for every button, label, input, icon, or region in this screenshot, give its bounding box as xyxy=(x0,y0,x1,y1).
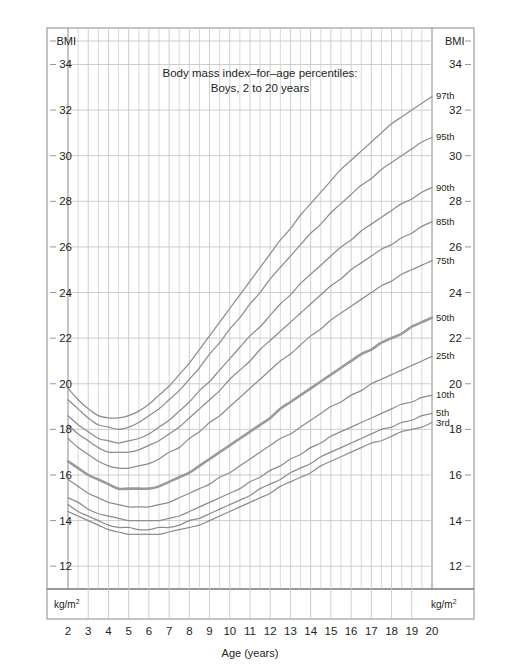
x-tick-10: 10 xyxy=(223,625,236,637)
y-tick-right-28: 28 xyxy=(449,195,462,207)
y-tick-left-14: 14 xyxy=(59,515,72,527)
x-tick-16: 16 xyxy=(345,625,358,637)
x-tick-11: 11 xyxy=(244,625,256,637)
y-tick-left-22: 22 xyxy=(59,332,72,344)
y-tick-right-24: 24 xyxy=(449,287,462,299)
x-tick-9: 9 xyxy=(206,625,212,637)
y-tick-right-12: 12 xyxy=(449,560,462,572)
x-tick-19: 19 xyxy=(405,625,418,637)
x-tick-8: 8 xyxy=(186,625,192,637)
y-tick-left-12: 12 xyxy=(59,560,72,572)
x-tick-6: 6 xyxy=(146,625,152,637)
x-tick-20: 20 xyxy=(426,625,439,637)
chart-canvas: 121416182022242628303234BMI 121416182022… xyxy=(0,0,520,666)
y-tick-right-14: 14 xyxy=(449,515,462,527)
x-axis-title: Age (years) xyxy=(222,647,279,659)
chart-title: Body mass index–for–age percentiles: xyxy=(163,67,358,79)
percentile-label-97th: 97th xyxy=(436,90,455,101)
y-tick-left-32: 32 xyxy=(59,104,72,116)
x-tick-5: 5 xyxy=(125,625,131,637)
percentile-label-25th: 25th xyxy=(436,350,455,361)
y-tick-left-34: 34 xyxy=(59,58,72,70)
x-tick-12: 12 xyxy=(264,625,277,637)
percentile-label-50th: 50th xyxy=(436,312,455,323)
y-tick-left-18: 18 xyxy=(59,423,72,435)
y-tick-right-22: 22 xyxy=(449,332,462,344)
y-tick-right-18: 18 xyxy=(449,423,462,435)
x-tick-18: 18 xyxy=(385,625,398,637)
percentile-label-75th: 75th xyxy=(436,255,455,266)
y-tick-right-34: 34 xyxy=(449,58,462,70)
y-tick-left-30: 30 xyxy=(59,150,72,162)
bmi-growth-chart: 121416182022242628303234BMI 121416182022… xyxy=(0,0,520,666)
percentile-label-90th: 90th xyxy=(436,182,455,193)
y-tick-left-26: 26 xyxy=(59,241,72,253)
percentile-label-95th: 95th xyxy=(436,131,455,142)
x-tick-3: 3 xyxy=(85,625,91,637)
y-tick-right-32: 32 xyxy=(449,104,462,116)
chart-subtitle: Boys, 2 to 20 years xyxy=(211,82,310,94)
percentile-label-3rd: 3rd xyxy=(436,417,450,428)
x-tick-13: 13 xyxy=(284,625,297,637)
x-tick-4: 4 xyxy=(105,625,112,637)
y-tick-right-20: 20 xyxy=(449,378,462,390)
percentile-label-10th: 10th xyxy=(436,389,455,400)
y-tick-right-30: 30 xyxy=(449,150,462,162)
y-axis-title-left: BMI xyxy=(56,35,76,47)
x-tick-17: 17 xyxy=(365,625,378,637)
x-tick-7: 7 xyxy=(166,625,172,637)
x-tick-2: 2 xyxy=(65,625,71,637)
y-tick-right-16: 16 xyxy=(449,469,462,481)
y-tick-left-24: 24 xyxy=(59,287,72,299)
y-tick-right-26: 26 xyxy=(449,241,462,253)
percentile-label-85th: 85th xyxy=(436,216,455,227)
y-axis-title-right: BMI xyxy=(445,35,465,47)
y-tick-left-20: 20 xyxy=(59,378,72,390)
x-tick-15: 15 xyxy=(324,625,337,637)
y-tick-left-16: 16 xyxy=(59,469,72,481)
y-tick-left-28: 28 xyxy=(59,195,72,207)
x-tick-14: 14 xyxy=(304,625,317,637)
